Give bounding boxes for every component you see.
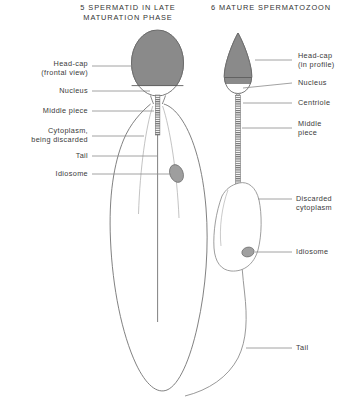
discarded-cytoplasm-outline [214, 183, 261, 271]
diagram-canvas: 5 SPERMATID IN LATE MATURATION PHASE 6 M… [0, 0, 354, 402]
spermatid-middle-piece [155, 95, 160, 135]
spermatid-cytoplasm-outline [110, 104, 207, 391]
spermatogenesis-drawing [0, 0, 354, 402]
spermatozoon-middle-piece [236, 96, 241, 188]
